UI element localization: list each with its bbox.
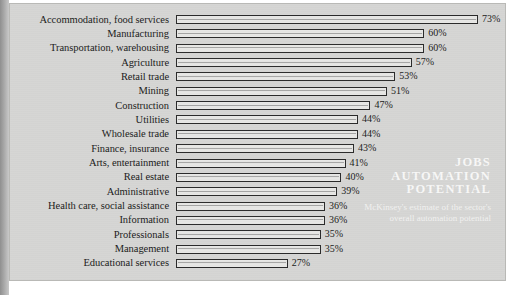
- value-label: 44%: [362, 113, 380, 125]
- bar: [176, 58, 412, 67]
- category-label: Wholesale trade: [10, 128, 169, 140]
- value-label: 41%: [350, 157, 368, 169]
- category-label: Accommodation, food services: [10, 14, 169, 26]
- value-label: 36%: [329, 200, 347, 212]
- value-label: 35%: [325, 243, 343, 255]
- bar-fill: [176, 159, 346, 168]
- bar-fill: [176, 144, 354, 153]
- bar: [176, 230, 321, 239]
- bar-fill: [176, 202, 325, 211]
- chart-row: Mining51%: [10, 85, 505, 98]
- bar-fill: [176, 15, 478, 24]
- bar-fill: [176, 187, 337, 196]
- category-label: Utilities: [10, 114, 169, 126]
- category-label: Educational services: [10, 257, 169, 269]
- category-label: Agriculture: [10, 57, 169, 69]
- bar: [176, 72, 395, 81]
- chart-screenshot: Accommodation, food services73%Manufactu…: [0, 0, 515, 295]
- value-label: 44%: [362, 128, 380, 140]
- chart-row: Health care, social assistance36%: [10, 200, 505, 213]
- bar: [176, 144, 354, 153]
- value-label: 27%: [292, 257, 310, 269]
- category-label: Mining: [10, 85, 169, 97]
- bar-fill: [176, 29, 424, 38]
- value-label: 73%: [482, 13, 500, 25]
- chart-row: Accommodation, food services73%: [10, 13, 505, 26]
- bar-fill: [176, 216, 325, 225]
- bar: [176, 187, 337, 196]
- bar: [176, 216, 325, 225]
- chart-row: Professionals35%: [10, 228, 505, 241]
- bar-fill: [176, 115, 358, 124]
- bar: [176, 115, 358, 124]
- bar: [176, 130, 358, 139]
- chart-row: Finance, insurance43%: [10, 142, 505, 155]
- chart-panel: Accommodation, food services73%Manufactu…: [9, 3, 506, 281]
- chart-row: Educational services27%: [10, 257, 505, 270]
- chart-row: Retail trade53%: [10, 70, 505, 83]
- bar-fill: [176, 230, 321, 239]
- bar: [176, 173, 341, 182]
- bar-fill: [176, 245, 321, 254]
- chart-row: Utilities44%: [10, 113, 505, 126]
- value-label: 60%: [428, 42, 446, 54]
- chart-row: Agriculture57%: [10, 56, 505, 69]
- bar-fill: [176, 72, 395, 81]
- category-label: Transportation, warehousing: [10, 42, 169, 54]
- value-label: 39%: [341, 185, 359, 197]
- value-label: 57%: [416, 56, 434, 68]
- value-label: 40%: [345, 171, 363, 183]
- category-label: Finance, insurance: [10, 143, 169, 155]
- category-label: Professionals: [10, 229, 169, 241]
- chart-row: Information36%: [10, 214, 505, 227]
- value-label: 60%: [428, 27, 446, 39]
- bar-fill: [176, 58, 412, 67]
- bar: [176, 29, 424, 38]
- bar-chart-plot-area: Accommodation, food services73%Manufactu…: [10, 4, 505, 280]
- bar-fill: [176, 87, 387, 96]
- value-label: 53%: [399, 70, 417, 82]
- chart-row: Transportation, warehousing60%: [10, 42, 505, 55]
- category-label: Construction: [10, 100, 169, 112]
- category-label: Information: [10, 214, 169, 226]
- chart-row: Administrative39%: [10, 185, 505, 198]
- chart-row: Arts, entertainment41%: [10, 157, 505, 170]
- bar: [176, 259, 288, 268]
- bar: [176, 202, 325, 211]
- bar-fill: [176, 130, 358, 139]
- bar: [176, 44, 424, 53]
- bar-fill: [176, 101, 370, 110]
- category-label: Health care, social assistance: [10, 200, 169, 212]
- chart-row: Management35%: [10, 243, 505, 256]
- category-label: Manufacturing: [10, 28, 169, 40]
- value-label: 35%: [325, 228, 343, 240]
- category-label: Administrative: [10, 186, 169, 198]
- category-label: Arts, entertainment: [10, 157, 169, 169]
- value-label: 51%: [391, 85, 409, 97]
- chart-row: Real estate40%: [10, 171, 505, 184]
- bar: [176, 159, 346, 168]
- bar: [176, 245, 321, 254]
- value-label: 36%: [329, 214, 347, 226]
- chart-row: Manufacturing60%: [10, 27, 505, 40]
- bar: [176, 15, 478, 24]
- bar: [176, 101, 370, 110]
- bar: [176, 87, 387, 96]
- bar-fill: [176, 173, 341, 182]
- category-label: Retail trade: [10, 71, 169, 83]
- value-label: 47%: [374, 99, 392, 111]
- bar-fill: [176, 44, 424, 53]
- value-label: 43%: [358, 142, 376, 154]
- scan-edge-artifact: [0, 0, 9, 295]
- bar-fill: [176, 259, 288, 268]
- chart-row: Construction47%: [10, 99, 505, 112]
- chart-row: Wholesale trade44%: [10, 128, 505, 141]
- category-label: Management: [10, 243, 169, 255]
- category-label: Real estate: [10, 171, 169, 183]
